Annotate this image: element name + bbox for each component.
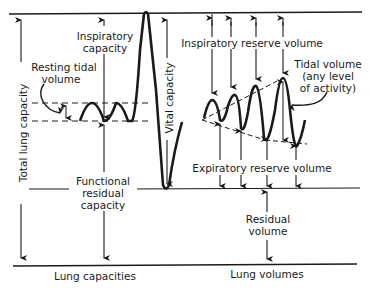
- lung-volumes-caption: Lung volumes: [222, 268, 312, 280]
- inspiratory-reserve-volume-label: Inspiratory reserve volume: [178, 37, 326, 49]
- tidal-envelope-upper: [202, 78, 283, 120]
- zero-line: [13, 264, 357, 266]
- inspiratory-capacity-label: Inspiratory capacity: [73, 30, 137, 54]
- resting-tidal-volume-label: Resting tidal volume: [28, 61, 100, 85]
- lung-capacities-caption: Lung capacities: [44, 270, 146, 282]
- total-lung-capacity-label: Total lung capacity: [17, 74, 29, 192]
- tidal-envelope-lower: [202, 120, 265, 140]
- frc-line-right: [126, 188, 360, 189]
- residual-volume-label: Residual volume: [240, 213, 296, 237]
- expiratory-reserve-volume-label: Expiratory reserve volume: [186, 162, 338, 174]
- tidal-volume-label: Tidal volume (any level of activity): [290, 58, 366, 94]
- functional-residual-capacity-label: Functional residual capacity: [69, 175, 137, 211]
- vital-capacity-label: Vital capacity: [163, 59, 175, 137]
- total-lung-capacity-line: [9, 12, 362, 14]
- lung-volumes-diagram: Total lung capacity Vital capacity Inspi…: [0, 0, 369, 290]
